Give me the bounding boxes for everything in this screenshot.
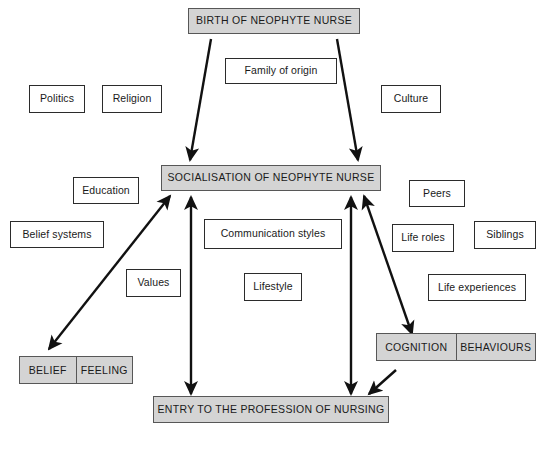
node-label: SOCIALISATION OF NEOPHYTE NURSE	[168, 172, 375, 184]
node-life-experiences: Life experiences	[428, 274, 526, 301]
node-politics: Politics	[29, 85, 85, 113]
node-values: Values	[126, 269, 181, 297]
node-religion: Religion	[102, 85, 162, 113]
node-education: Education	[73, 177, 139, 204]
node-culture: Culture	[381, 85, 441, 113]
node-entry-to-profession-of-nursing: ENTRY TO THE PROFESSION OF NURSING	[153, 396, 389, 423]
arrow-socialisation-cognition	[364, 196, 412, 334]
node-lifestyle: Lifestyle	[244, 273, 302, 301]
node-life-roles: Life roles	[392, 224, 454, 252]
node-label: Culture	[394, 93, 429, 105]
node-label: Values	[138, 277, 170, 289]
arrow-birth-to-socialisation-right	[337, 39, 358, 160]
node-label: BEHAVIOURS	[460, 341, 531, 353]
diagram-canvas: BIRTH OF NEOPHYTE NURSE Family of origin…	[0, 0, 548, 458]
node-birth-of-neophyte-nurse: BIRTH OF NEOPHYTE NURSE	[188, 8, 360, 34]
node-label: Politics	[40, 93, 74, 105]
node-family-of-origin: Family of origin	[225, 58, 337, 84]
node-label: Siblings	[486, 229, 524, 241]
node-label: COGNITION	[385, 341, 447, 353]
node-siblings: Siblings	[474, 221, 536, 249]
node-belief-systems: Belief systems	[10, 221, 104, 248]
node-label: ENTRY TO THE PROFESSION OF NURSING	[158, 404, 385, 416]
node-label: Religion	[113, 93, 152, 105]
node-label: Family of origin	[245, 65, 318, 77]
node-label: Communication styles	[221, 228, 326, 240]
node-label: Education	[82, 185, 130, 197]
node-feeling: FEELING	[76, 357, 133, 383]
node-behaviours: BEHAVIOURS	[456, 334, 536, 360]
node-label: FEELING	[81, 364, 128, 376]
node-socialisation-of-neophyte-nurse: SOCIALISATION OF NEOPHYTE NURSE	[161, 165, 381, 191]
node-label: Life experiences	[438, 282, 516, 294]
node-label: Life roles	[401, 232, 445, 244]
node-label: Lifestyle	[253, 281, 292, 293]
node-label: Peers	[423, 188, 451, 200]
node-belief-feeling-pair: BELIEF FEELING	[19, 356, 133, 384]
node-belief: BELIEF	[20, 357, 76, 383]
arrow-birth-to-socialisation-left	[190, 39, 211, 160]
node-peers: Peers	[409, 180, 465, 207]
arrow-cognition-to-entry	[369, 370, 396, 394]
node-label: BELIEF	[29, 364, 67, 376]
node-communication-styles: Communication styles	[204, 219, 342, 249]
node-cognition-behaviours-pair: COGNITION BEHAVIOURS	[376, 333, 536, 361]
node-label: Belief systems	[22, 229, 91, 241]
node-cognition: COGNITION	[377, 334, 456, 360]
node-label: BIRTH OF NEOPHYTE NURSE	[196, 15, 352, 27]
